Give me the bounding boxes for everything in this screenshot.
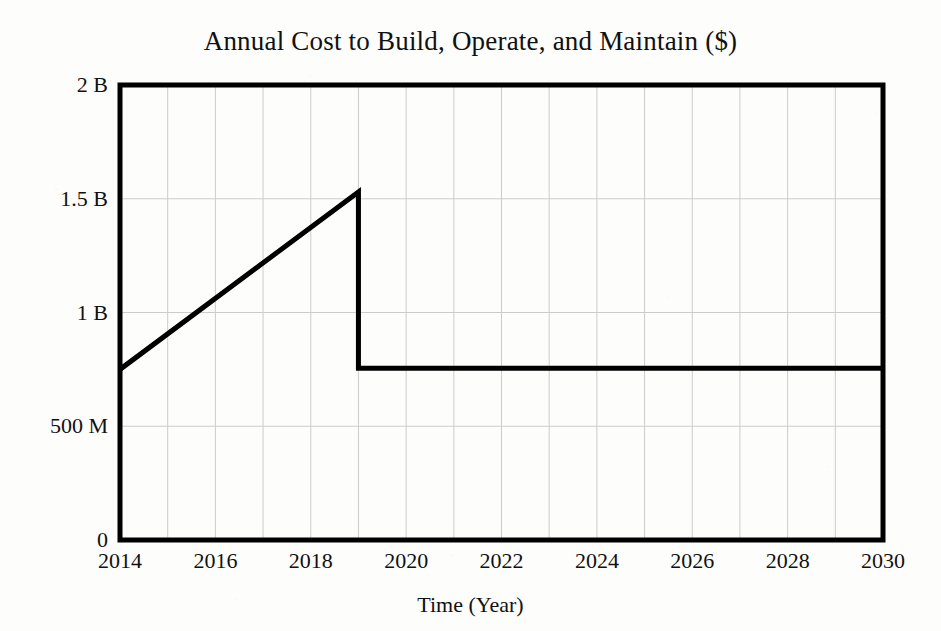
x-tick-label: 2014 [74,548,166,574]
y-tick-label: 2 B [0,72,108,98]
x-tick-label: 2030 [837,548,929,574]
x-tick-label: 2020 [360,548,452,574]
y-tick-label: 1 B [0,300,108,326]
y-tick-label: 500 M [0,413,108,439]
x-tick-label: 2026 [646,548,738,574]
x-tick-label: 2028 [742,548,834,574]
x-tick-label: 2022 [456,548,548,574]
x-tick-label: 2016 [169,548,261,574]
x-tick-label: 2018 [265,548,357,574]
y-tick-label: 1.5 B [0,186,108,212]
x-axis-title: Time (Year) [0,592,941,618]
gridlines [120,85,883,540]
x-tick-label: 2024 [551,548,643,574]
chart-page: Annual Cost to Build, Operate, and Maint… [0,0,941,631]
line-chart-plot [0,0,941,631]
